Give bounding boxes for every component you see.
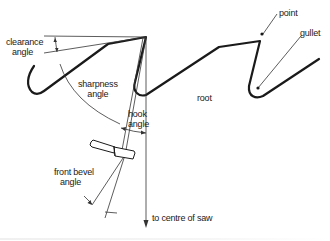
point-label: point (279, 9, 298, 18)
hook-angle-label: hook angle (128, 110, 149, 129)
clearance-angle-label: clearance angle (6, 38, 43, 57)
faded-caption-strip (0, 238, 330, 240)
point-leader (263, 14, 277, 34)
gullet-label: gullet (300, 29, 320, 38)
point-marker (260, 32, 263, 35)
gullet-marker (256, 86, 259, 89)
bevel-section-right (114, 147, 135, 159)
arrow-down-icon (144, 220, 149, 228)
clearance-line (44, 37, 146, 53)
gullet-leader (258, 36, 301, 88)
front-bevel-angle-label: front bevel angle (54, 168, 94, 187)
sharpness-angle-label: sharpness angle (78, 80, 118, 99)
saw-tooth-diagram: clearance angle sharpness angle hook ang… (0, 0, 330, 241)
to-centre-label: to centre of saw (152, 214, 212, 223)
bevel-section-left (90, 140, 115, 153)
root-label: root (197, 94, 212, 103)
reference-line-top (44, 36, 146, 37)
diagram-drawing (0, 0, 330, 241)
